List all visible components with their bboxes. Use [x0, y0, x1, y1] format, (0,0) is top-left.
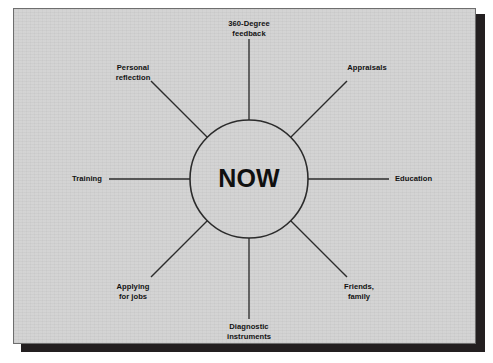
spoke-line-personal-reflection: [151, 81, 207, 137]
spoke-label-appraisals: Appraisals: [332, 63, 402, 73]
spoke-label-friends-family: Friends, family: [324, 282, 394, 301]
spoke-label-diagnostic-instruments: Diagnostic instruments: [204, 322, 294, 341]
spoke-label-applying-for-jobs: Applying for jobs: [98, 282, 168, 301]
center-label: NOW: [199, 166, 299, 191]
figure-root: NOW 360-Degree feedback Appraisals Educa…: [0, 0, 493, 363]
spoke-label-personal-reflection: Personal reflection: [97, 63, 169, 82]
diagram-panel: NOW 360-Degree feedback Appraisals Educa…: [13, 8, 476, 344]
spoke-label-training: Training: [28, 174, 102, 184]
spoke-line-appraisals: [291, 81, 347, 137]
spoke-line-applying-for-jobs: [151, 221, 207, 277]
spoke-label-education: Education: [395, 174, 467, 184]
spoke-line-friends-family: [291, 221, 347, 277]
spoke-label-360-degree-feedback: 360-Degree feedback: [204, 19, 294, 38]
